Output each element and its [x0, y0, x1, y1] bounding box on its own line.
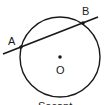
point-a-marker	[19, 45, 23, 49]
point-b-marker	[81, 21, 85, 25]
point-a-label: A	[8, 35, 16, 47]
center-label: O	[56, 64, 65, 76]
caption: Secant	[38, 100, 72, 105]
point-b-label: B	[82, 5, 89, 17]
center-point-marker	[58, 55, 62, 59]
secant-diagram: A B O Secant	[0, 0, 106, 105]
